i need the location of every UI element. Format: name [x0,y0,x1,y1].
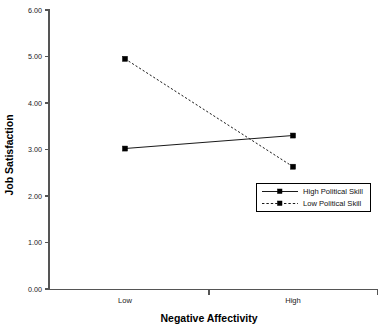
x-tick-label-high: High [285,296,301,305]
y-tick-label: 3.00 [28,145,42,154]
legend-label: Low Political Skill [303,199,362,208]
x-tick-label-low: Low [118,296,132,305]
y-tick-label: 5.00 [28,52,42,61]
y-tick-label: 2.00 [28,192,42,201]
y-tick-label: 4.00 [28,99,42,108]
y-axis-title: Job Satisfaction [3,114,15,195]
legend-marker [278,201,283,206]
data-point-marker [291,164,296,169]
y-tick-label: 6.00 [28,6,42,15]
data-point-marker [123,56,128,61]
y-tick-label: 1.00 [28,238,42,247]
x-axis-title: Negative Affectivity [160,312,257,324]
y-tick-label: 0.00 [28,285,42,294]
chart-container: 6.00 5.00 4.00 3.00 2.00 1.00 [0,0,382,329]
legend-marker [278,189,283,194]
legend-label: High Political Skill [303,187,363,196]
interaction-plot: 6.00 5.00 4.00 3.00 2.00 1.00 [0,0,382,329]
chart-background [0,0,382,329]
chart-legend: High Political Skill Low Political Skill [257,184,371,212]
data-point-marker [123,146,128,151]
data-point-marker [291,133,296,138]
